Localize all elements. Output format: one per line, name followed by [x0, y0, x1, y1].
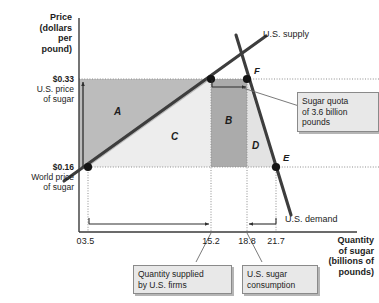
region-label-b: B	[225, 115, 232, 126]
callout-line: Quantity supplied	[138, 269, 227, 280]
callout-line: pounds	[302, 117, 374, 128]
point-e	[272, 163, 280, 171]
quantity-supplied-arrow	[89, 218, 209, 224]
y-axis-title-line: (dollars	[6, 23, 72, 34]
y-tick-016: $0.16 World price of sugar	[2, 162, 74, 192]
point-supply-world	[84, 163, 92, 171]
x-tick-3-5: 3.5	[77, 236, 99, 246]
x-axis-title-line: Quantity	[294, 235, 374, 246]
x-tick-15-2: 15.2	[199, 236, 223, 246]
callout-line: Sugar quota	[302, 96, 374, 107]
x-tick-18-8: 18.8	[235, 236, 259, 246]
y-axis-title-line: pound)	[6, 44, 72, 55]
point-supply-quota	[207, 75, 215, 83]
region-label-a: A	[114, 106, 121, 117]
y-tick-033-price: $0.33	[2, 74, 74, 84]
y-tick-033-desc: of sugar	[2, 94, 74, 104]
callout-quantity-supplied: Quantity supplied by U.S. firms	[133, 265, 232, 294]
x-axis-title-line: of sugar	[294, 246, 374, 257]
y-axis-title: Price (dollars per pound)	[6, 12, 72, 54]
callout-line: of 3.6 billion	[302, 107, 374, 118]
y-axis-title-line: Price	[6, 12, 72, 23]
callout-line: consumption	[247, 280, 313, 291]
y-tick-016-desc: World price	[2, 172, 74, 182]
y-tick-016-desc: of sugar	[2, 182, 74, 192]
y-tick-033-desc: U.S. price	[2, 84, 74, 94]
point-label-f: F	[254, 65, 260, 76]
point-label-e: E	[283, 152, 289, 163]
region-label-c: C	[171, 131, 178, 142]
x-tick-21-7: 21.7	[264, 236, 288, 246]
callout-sugar-quota: Sugar quota of 3.6 billion pounds	[297, 92, 379, 132]
y-tick-016-price: $0.16	[2, 162, 74, 172]
us-supply-label: U.S. supply	[263, 29, 309, 39]
figure-sugar-quota: Price (dollars per pound) $0.33 U.S. pri…	[0, 0, 379, 303]
us-demand-label: U.S. demand	[285, 214, 338, 224]
consumption-arrow	[249, 218, 276, 224]
y-axis-title-line: per	[6, 33, 72, 44]
point-f	[243, 75, 251, 83]
callout-line: U.S. sugar	[247, 269, 313, 280]
y-tick-033: $0.33 U.S. price of sugar	[2, 74, 74, 104]
callout-line: by U.S. firms	[138, 280, 227, 291]
region-label-d: D	[252, 140, 259, 151]
callout-us-sugar-consumption: U.S. sugar consumption	[242, 265, 318, 294]
